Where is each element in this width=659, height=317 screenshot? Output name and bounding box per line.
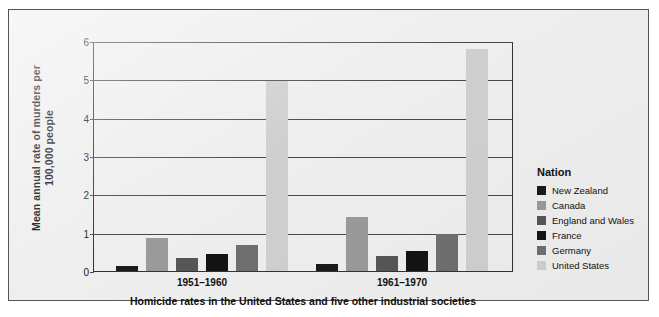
- bar: [466, 49, 488, 271]
- chart-caption: Homicide rates in the United States and …: [93, 295, 513, 307]
- legend-item-label: United States: [552, 260, 609, 271]
- bar: [316, 264, 338, 271]
- y-tick-label: 2: [83, 190, 89, 201]
- legend-title: Nation: [537, 166, 657, 178]
- y-tick-label: 5: [83, 75, 89, 86]
- legend-item: Germany: [537, 243, 657, 258]
- y-tick-label: 4: [83, 113, 89, 124]
- legend-item: United States: [537, 258, 657, 273]
- bar: [236, 245, 258, 271]
- bar-group: 1951–1960: [116, 42, 288, 271]
- legend-item-label: France: [552, 230, 582, 241]
- legend-swatch-icon: [537, 216, 546, 225]
- legend-item: France: [537, 228, 657, 243]
- y-tick-label: 0: [83, 267, 89, 278]
- x-axis-group-label: 1951–1960: [116, 277, 288, 288]
- y-tick-label: 1: [83, 228, 89, 239]
- legend-item: Canada: [537, 198, 657, 213]
- legend-item-label: England and Wales: [552, 215, 634, 226]
- plot-frame: 0123456 1951–19601961–1970: [93, 42, 513, 272]
- x-axis-group-label: 1961–1970: [316, 277, 488, 288]
- legend-item: New Zealand: [537, 183, 657, 198]
- figure-root: Mean annual rate of murders per 100,000 …: [0, 0, 659, 317]
- bar: [346, 217, 368, 271]
- bar: [376, 256, 398, 271]
- y-tick-mark: [90, 234, 94, 235]
- y-tick-label: 6: [83, 37, 89, 48]
- bar-group: 1961–1970: [316, 42, 488, 271]
- legend-swatch-icon: [537, 201, 546, 210]
- bar: [116, 266, 138, 271]
- legend-item-label: Germany: [552, 245, 591, 256]
- y-tick-mark: [90, 195, 94, 196]
- legend-swatch-icon: [537, 231, 546, 240]
- bar: [406, 251, 428, 271]
- legend-swatch-icon: [537, 186, 546, 195]
- y-tick-mark: [90, 119, 94, 120]
- bar: [176, 258, 198, 271]
- legend-item: England and Wales: [537, 213, 657, 228]
- y-axis-title: Mean annual rate of murders per 100,000 …: [30, 48, 56, 248]
- bar: [436, 234, 458, 271]
- y-tick-mark: [90, 272, 94, 273]
- legend-item-label: Canada: [552, 200, 585, 211]
- legend-swatch-icon: [537, 261, 546, 270]
- legend: Nation New ZealandCanadaEngland and Wale…: [537, 166, 657, 273]
- plot-area: 0123456 1951–19601961–1970: [93, 32, 513, 272]
- bar: [266, 81, 288, 271]
- chart-panel: Mean annual rate of murders per 100,000 …: [8, 9, 649, 301]
- legend-swatch-icon: [537, 246, 546, 255]
- legend-item-label: New Zealand: [552, 185, 608, 196]
- y-tick-mark: [90, 157, 94, 158]
- bar: [206, 254, 228, 271]
- y-tick-mark: [90, 80, 94, 81]
- legend-entries: New ZealandCanadaEngland and WalesFrance…: [537, 183, 657, 273]
- y-tick-mark: [90, 42, 94, 43]
- bar: [146, 238, 168, 271]
- y-tick-label: 3: [83, 152, 89, 163]
